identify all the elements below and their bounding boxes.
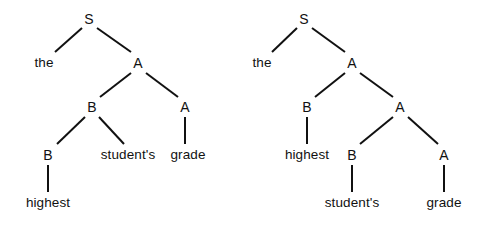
tree-node-l-a1: A (133, 56, 142, 70)
tree-edge (100, 73, 131, 97)
tree-node-l-b1: B (87, 100, 96, 114)
tree-edge (360, 73, 393, 97)
tree-node-r-highest: highest (285, 148, 329, 162)
tree-node-r-the: the (252, 56, 271, 70)
tree-edges-layer (0, 0, 484, 226)
tree-edge (312, 28, 345, 52)
right-parse-tree-edges (272, 28, 444, 192)
tree-node-r-a1: A (347, 56, 356, 70)
parse-tree-figure: StheABABstudent'sgradehighestStheABAhigh… (0, 0, 484, 226)
tree-node-l-a2: A (180, 100, 189, 114)
tree-edge (315, 73, 345, 97)
tree-edge (360, 117, 393, 144)
tree-node-l-highest: highest (26, 196, 70, 210)
tree-edge (57, 117, 85, 144)
tree-node-l-s: S (84, 12, 93, 26)
tree-node-r-a3: A (439, 148, 448, 162)
tree-edge (99, 117, 124, 144)
tree-edge (146, 73, 178, 97)
tree-edge (97, 28, 131, 52)
tree-node-r-b2: B (347, 148, 356, 162)
tree-node-l-students: student's (101, 148, 156, 162)
tree-edge (55, 28, 82, 52)
tree-edge (408, 117, 438, 144)
tree-node-l-b2: B (43, 148, 52, 162)
tree-node-r-a2: A (395, 100, 404, 114)
tree-node-r-grade: grade (426, 196, 461, 210)
tree-node-r-s: S (299, 12, 308, 26)
left-parse-tree-edges (48, 28, 185, 192)
edges-group (48, 28, 444, 192)
tree-edge (272, 28, 297, 52)
tree-node-r-b1: B (302, 100, 311, 114)
tree-node-l-the: the (34, 56, 53, 70)
tree-node-l-grade: grade (170, 148, 205, 162)
tree-node-r-students: student's (325, 196, 380, 210)
